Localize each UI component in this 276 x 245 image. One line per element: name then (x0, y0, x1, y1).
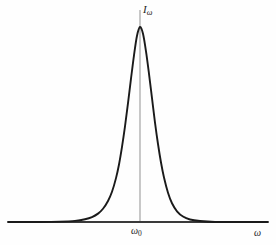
plot-canvas (0, 0, 276, 245)
x-tick-symbol: ω (131, 225, 138, 236)
y-axis-label: Iω (143, 4, 152, 17)
plot-group (8, 10, 268, 222)
spectral-line-figure: Iω ω0 ω (0, 0, 276, 245)
x-axis-label: ω (254, 228, 261, 238)
spectral-line-curve (8, 27, 268, 222)
y-axis-subscript: ω (147, 8, 153, 17)
x-tick-subscript: 0 (138, 229, 142, 238)
x-tick-label-omega-zero: ω0 (131, 226, 142, 238)
x-axis-symbol: ω (254, 227, 261, 238)
